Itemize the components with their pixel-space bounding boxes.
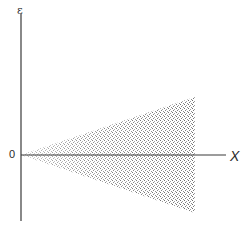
origin-label: 0	[9, 149, 15, 160]
diagram-canvas	[0, 0, 251, 232]
x-axis-label: X	[230, 149, 239, 163]
y-axis-label: ε	[17, 5, 23, 16]
wedge-diagram: ε X 0	[0, 0, 251, 232]
